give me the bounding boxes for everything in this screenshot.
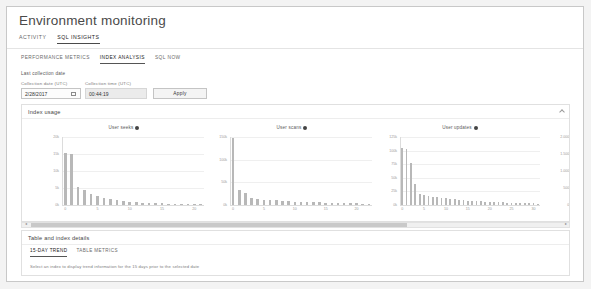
chart-bar[interactable]: [238, 190, 241, 205]
chart-bar[interactable]: [515, 203, 517, 205]
chart-bar[interactable]: [432, 197, 434, 205]
chart-bar[interactable]: [90, 194, 93, 205]
chart-bar[interactable]: [154, 203, 157, 205]
chart-bar[interactable]: [331, 203, 334, 205]
chart-bar[interactable]: [463, 200, 465, 205]
info-icon[interactable]: [135, 126, 139, 130]
chart-bar[interactable]: [116, 200, 119, 205]
chart-bar[interactable]: [337, 203, 340, 205]
chart-bar[interactable]: [161, 203, 164, 205]
y-axis-tick-label: 0k: [393, 203, 397, 207]
charts-horizontal-scrollbar[interactable]: ◂ ▸: [21, 222, 570, 228]
x-axis-tick-label: 25: [510, 207, 514, 211]
chart-bar[interactable]: [410, 163, 412, 205]
tab-performance-metrics[interactable]: PERFORMANCE METRICS: [21, 55, 90, 64]
chart-bar[interactable]: [349, 203, 352, 205]
chart-bar[interactable]: [406, 149, 408, 205]
chart-bar[interactable]: [454, 199, 456, 205]
chart-bar[interactable]: [528, 203, 530, 205]
chart-bar[interactable]: [498, 202, 500, 205]
chart-bar[interactable]: [187, 204, 190, 205]
chart-bar[interactable]: [312, 202, 315, 205]
chart-bar[interactable]: [506, 203, 508, 205]
chart-bar[interactable]: [83, 190, 86, 205]
chart-bar[interactable]: [401, 148, 403, 205]
chart-bar[interactable]: [64, 153, 67, 205]
chart-bar[interactable]: [324, 203, 327, 205]
chart-bar[interactable]: [141, 203, 144, 205]
chart-bar[interactable]: [458, 200, 460, 205]
chart-bar[interactable]: [70, 154, 73, 205]
chart-bar[interactable]: [275, 200, 278, 205]
calendar-icon[interactable]: [71, 91, 77, 97]
chart-bar[interactable]: [250, 198, 253, 205]
chart-bar[interactable]: [294, 202, 297, 205]
chart-bar[interactable]: [77, 187, 80, 205]
chart-bar[interactable]: [511, 203, 513, 205]
chart-bar[interactable]: [269, 200, 272, 205]
chart-bar[interactable]: [519, 203, 521, 205]
tab-sql-insights[interactable]: SQL INSIGHTS: [57, 34, 99, 44]
chart-bar[interactable]: [414, 184, 416, 205]
tab-table-metrics[interactable]: TABLE METRICS: [76, 248, 117, 257]
chart-bar[interactable]: [441, 198, 443, 205]
chart-bar[interactable]: [343, 203, 346, 205]
chart-bar[interactable]: [537, 204, 539, 205]
tab-activity[interactable]: ACTIVITY: [19, 34, 46, 44]
chart-bar[interactable]: [368, 204, 371, 205]
chart-bar[interactable]: [244, 193, 247, 205]
chart-bar[interactable]: [502, 202, 504, 205]
chart-bar[interactable]: [180, 204, 183, 205]
chart-bar[interactable]: [122, 201, 125, 205]
chart-bar[interactable]: [103, 198, 106, 205]
chart-bar[interactable]: [256, 199, 259, 205]
chart-bar[interactable]: [199, 204, 202, 205]
chart-bar[interactable]: [419, 194, 421, 205]
tab-15-day-trend[interactable]: 15-DAY TREND: [30, 248, 67, 257]
collection-date-input[interactable]: 2/28/2017: [21, 88, 81, 99]
apply-button[interactable]: Apply: [153, 88, 207, 99]
details-hint-text: Select an index to display trend informa…: [30, 264, 199, 269]
chart-bar[interactable]: [135, 202, 138, 205]
chart-bar[interactable]: [148, 203, 151, 205]
chart-bar[interactable]: [318, 202, 321, 205]
chart-bar[interactable]: [493, 202, 495, 205]
chart-bar[interactable]: [476, 201, 478, 205]
scroll-right-arrow[interactable]: ▸: [562, 223, 569, 227]
chart-bar[interactable]: [306, 202, 309, 205]
chart-bar[interactable]: [300, 202, 303, 205]
x-axis-tick-label: 0: [232, 207, 234, 211]
chart-bar[interactable]: [361, 204, 364, 205]
chart-bar[interactable]: [355, 203, 358, 205]
chart-bar[interactable]: [436, 197, 438, 205]
chart-bar[interactable]: [281, 201, 284, 205]
chart-bar[interactable]: [167, 204, 170, 205]
chart-bar[interactable]: [467, 201, 469, 205]
chart-bar[interactable]: [449, 199, 451, 205]
info-icon[interactable]: [303, 126, 307, 130]
chart-bar[interactable]: [524, 203, 526, 205]
chart-bar[interactable]: [423, 195, 425, 205]
scroll-left-arrow[interactable]: ◂: [22, 223, 29, 227]
collection-time-input[interactable]: 00:44:19: [85, 88, 147, 99]
scrollbar-thumb[interactable]: [31, 223, 407, 227]
tab-index-analysis[interactable]: INDEX ANALYSIS: [100, 55, 145, 64]
chevron-up-icon[interactable]: [560, 110, 564, 114]
chart-bar[interactable]: [484, 202, 486, 205]
chart-bar[interactable]: [445, 198, 447, 205]
chart-bar[interactable]: [96, 196, 99, 205]
chart-bar[interactable]: [193, 204, 196, 205]
chart-bar[interactable]: [128, 202, 131, 205]
chart-bar[interactable]: [471, 201, 473, 205]
chart-bar[interactable]: [232, 138, 235, 205]
chart-bar[interactable]: [489, 202, 491, 205]
chart-bar[interactable]: [287, 201, 290, 205]
chart-bar[interactable]: [109, 199, 112, 205]
chart-bar[interactable]: [174, 204, 177, 205]
chart-bar[interactable]: [480, 201, 482, 205]
chart-bar[interactable]: [533, 203, 535, 205]
tab-sql-now[interactable]: SQL NOW: [155, 55, 181, 64]
info-icon[interactable]: [474, 126, 478, 130]
chart-bar[interactable]: [428, 196, 430, 205]
chart-bar[interactable]: [263, 200, 266, 205]
